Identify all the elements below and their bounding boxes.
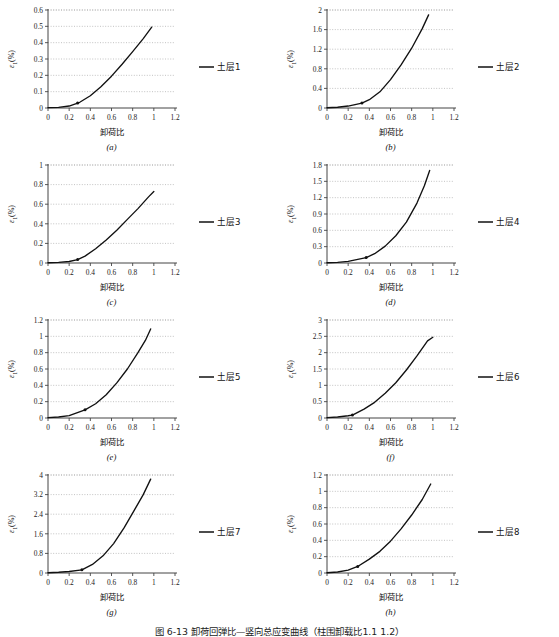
x-axis-title: 卸荷比 (379, 592, 403, 602)
x-tick-label: 0.4 (365, 113, 375, 122)
legend-label: 土层7 (217, 526, 240, 537)
y-tick-label: 0.6 (34, 200, 44, 209)
y-axis-title: ε1(%) (286, 360, 297, 378)
x-tick-label: 0.4 (365, 578, 375, 587)
data-curve (48, 329, 151, 418)
y-tick-label: 2 (318, 348, 322, 357)
x-tick-label: 0.8 (128, 268, 138, 277)
y-tick-label: 0.4 (313, 536, 323, 545)
x-axis-title: 卸荷比 (379, 437, 403, 447)
x-tick-label: 0.2 (344, 578, 354, 587)
y-tick-label: 0.3 (313, 242, 323, 251)
chart-panel-f: 00.511.522.5300.20.40.60.811.2ε1(%)卸荷比(f… (279, 310, 559, 465)
legend-label: 土层4 (496, 216, 519, 227)
y-tick-label: 1.5 (313, 365, 323, 374)
chart-panel-c: 00.20.40.60.8100.20.40.60.811.2ε1(%)卸荷比(… (0, 155, 279, 310)
x-tick-label: 0.6 (386, 113, 396, 122)
y-tick-label: 0.6 (34, 365, 44, 374)
x-tick-label: 0.8 (407, 423, 417, 432)
y-tick-label: 2 (318, 6, 322, 15)
x-tick-label: 0 (325, 268, 329, 277)
y-axis-title: ε1(%) (286, 205, 297, 223)
y-tick-label: 0.4 (34, 381, 44, 390)
chart-panel-g: 00.81.62.43.2400.20.40.60.811.2ε1(%)卸荷比(… (0, 465, 279, 622)
chart-panel-b: 00.40.81.21.6200.20.40.60.811.2ε1(%)卸荷比(… (279, 0, 559, 155)
x-tick-label: 1 (431, 113, 435, 122)
x-tick-label: 0.4 (86, 423, 96, 432)
x-axis-title: 卸荷比 (100, 127, 124, 137)
x-tick-label: 0.6 (107, 423, 117, 432)
y-tick-label: 0.6 (34, 6, 44, 15)
y-axis-title: ε1(%) (7, 515, 18, 533)
panel-caption: (g) (106, 607, 116, 617)
data-curve (48, 27, 152, 108)
y-tick-label: 0.2 (34, 239, 44, 248)
x-axis-title: 卸荷比 (100, 282, 124, 292)
y-tick-label: 3.2 (34, 490, 44, 499)
y-tick-label: 0.4 (34, 220, 44, 229)
legend-label: 土层3 (217, 216, 240, 227)
y-tick-label: 1.2 (313, 471, 323, 480)
y-tick-label: 0 (318, 569, 322, 578)
legend-label: 土层1 (217, 61, 240, 72)
y-tick-label: 0 (318, 104, 322, 113)
legend-label: 土层6 (496, 371, 519, 382)
x-tick-label: 1.2 (170, 268, 180, 277)
y-tick-label: 3 (318, 316, 322, 325)
y-tick-label: 0.8 (313, 65, 323, 74)
x-tick-label: 1 (431, 268, 435, 277)
x-tick-label: 0.2 (65, 423, 75, 432)
panel-caption: (f) (386, 452, 394, 462)
x-tick-label: 0.6 (107, 578, 117, 587)
data-marker-point (76, 102, 79, 105)
x-tick-label: 0.2 (65, 268, 75, 277)
y-axis-title: ε1(%) (286, 515, 297, 533)
data-curve (327, 15, 429, 108)
y-tick-label: 2.5 (313, 332, 323, 341)
y-axis-title: ε1(%) (7, 360, 18, 378)
x-axis-title: 卸荷比 (379, 127, 403, 137)
y-tick-label: 0.5 (313, 397, 323, 406)
y-tick-label: 0.6 (313, 520, 323, 529)
data-marker-point (360, 102, 363, 105)
panel-caption: (b) (385, 142, 395, 152)
legend-label: 土层5 (217, 371, 240, 382)
y-tick-label: 1.2 (34, 316, 44, 325)
x-tick-label: 0 (325, 423, 329, 432)
x-tick-label: 1 (152, 423, 156, 432)
x-tick-label: 0.2 (65, 578, 75, 587)
y-tick-label: 0.8 (34, 180, 44, 189)
y-tick-label: 4 (39, 471, 43, 480)
y-tick-label: 0.2 (34, 71, 44, 80)
y-axis-title: ε1(%) (7, 50, 18, 68)
y-tick-label: 0 (39, 104, 43, 113)
y-tick-label: 0.2 (313, 552, 323, 561)
x-tick-label: 0.2 (344, 113, 354, 122)
x-tick-label: 1 (152, 578, 156, 587)
x-tick-label: 1.2 (449, 268, 459, 277)
panel-caption: (a) (106, 142, 116, 152)
x-tick-label: 1.2 (170, 113, 180, 122)
x-tick-label: 1.2 (170, 423, 180, 432)
x-tick-label: 1 (431, 578, 435, 587)
x-axis-title: 卸荷比 (100, 592, 124, 602)
legend-label: 土层8 (496, 526, 519, 537)
y-tick-label: 0.6 (313, 226, 323, 235)
y-axis-title: ε1(%) (286, 50, 297, 68)
x-tick-label: 0.4 (86, 268, 96, 277)
data-marker-point (84, 408, 87, 411)
y-tick-label: 0.9 (313, 210, 323, 219)
x-tick-label: 1 (152, 113, 156, 122)
x-tick-label: 0.6 (386, 423, 396, 432)
y-tick-label: 1.8 (313, 161, 323, 170)
y-tick-label: 0.2 (34, 397, 44, 406)
x-tick-label: 1 (152, 268, 156, 277)
data-marker-point (76, 258, 79, 261)
x-tick-label: 1.2 (170, 578, 180, 587)
x-tick-label: 0.6 (386, 268, 396, 277)
y-tick-label: 1.2 (313, 193, 323, 202)
x-tick-label: 0 (46, 578, 50, 587)
x-tick-label: 0.8 (407, 268, 417, 277)
x-tick-label: 0.8 (128, 423, 138, 432)
panel-grid: 00.10.20.30.40.50.600.20.40.60.811.2ε1(%… (0, 0, 559, 622)
